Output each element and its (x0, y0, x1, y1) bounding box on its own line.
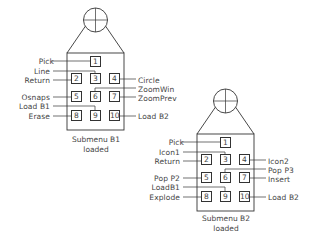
button-5[interactable]: 5 (71, 91, 82, 102)
caption-b1-line2: loaded (60, 145, 132, 155)
label-erase: Erase (29, 112, 50, 121)
button-1[interactable]: 1 (220, 137, 231, 148)
label-return: Return (25, 76, 51, 85)
button-3[interactable]: 3 (220, 154, 231, 165)
button-8[interactable]: 8 (201, 191, 212, 202)
button-10[interactable]: 10 (109, 110, 120, 121)
button-2[interactable]: 2 (71, 73, 82, 84)
button-6[interactable]: 6 (220, 172, 231, 183)
caption-b2: Submenu B2 loaded (190, 214, 262, 234)
label-pop-p3: Pop P3 (268, 166, 294, 175)
button-6[interactable]: 6 (90, 91, 101, 102)
button-5[interactable]: 5 (201, 172, 212, 183)
label-explode: Explode (149, 193, 180, 202)
label-load-b1: Load B1 (19, 102, 50, 111)
label-zoomwin: ZoomWin (138, 85, 174, 94)
label-pick: Pick (169, 138, 184, 147)
label-pick: Pick (39, 57, 54, 66)
label-pop-p2: Pop P2 (154, 174, 180, 183)
button-8[interactable]: 8 (71, 110, 82, 121)
caption-b2-line2: loaded (190, 224, 262, 234)
label-osnaps: Osnaps (22, 93, 50, 102)
label-line: Line (34, 67, 50, 76)
button-10[interactable]: 10 (239, 191, 250, 202)
button-7[interactable]: 7 (109, 91, 120, 102)
label-zoomprev: ZoomPrev (138, 94, 177, 103)
label-return: Return (155, 157, 181, 166)
label-load-b2: Load B2 (138, 112, 169, 121)
label-load-b2: Load B2 (268, 193, 299, 202)
button-7[interactable]: 7 (239, 172, 250, 183)
button-2[interactable]: 2 (201, 154, 212, 165)
button-4[interactable]: 4 (109, 73, 120, 84)
caption-b2-line1: Submenu B2 (190, 214, 262, 224)
label-circle: Circle (138, 76, 160, 85)
button-3[interactable]: 3 (90, 73, 101, 84)
button-9[interactable]: 9 (220, 191, 231, 202)
label-icon1: Icon1 (159, 148, 180, 157)
button-1[interactable]: 1 (90, 56, 101, 67)
label-insert: Insert (268, 175, 290, 184)
button-4[interactable]: 4 (239, 154, 250, 165)
label-loadb1: LoadB1 (151, 183, 180, 192)
label-icon2: Icon2 (268, 157, 289, 166)
caption-b1-line1: Submenu B1 (60, 135, 132, 145)
button-9[interactable]: 9 (90, 110, 101, 121)
caption-b1: Submenu B1 loaded (60, 135, 132, 155)
